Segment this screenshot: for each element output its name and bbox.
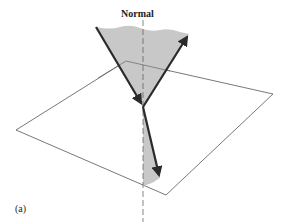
- figure-label: (a): [15, 203, 26, 214]
- diagram-canvas: [0, 0, 290, 222]
- normal-label: Normal: [121, 8, 154, 19]
- optics-diagram: Normal (a): [0, 0, 290, 222]
- shaded-reflection-wedge: [96, 26, 189, 107]
